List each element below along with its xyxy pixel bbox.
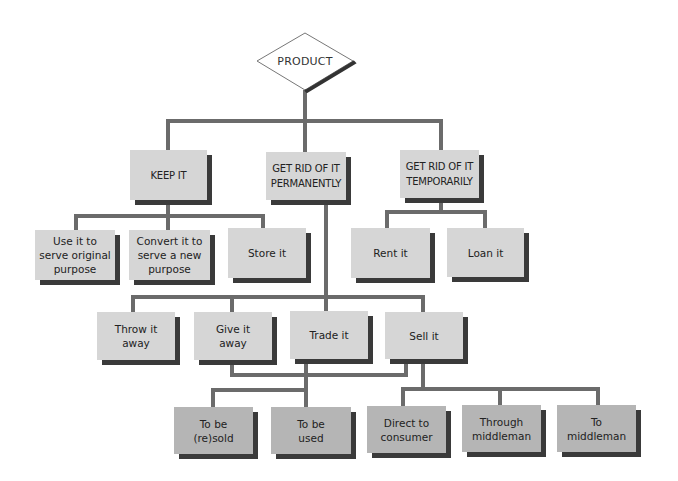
connector bbox=[596, 387, 600, 406]
node-label: Give it away bbox=[216, 322, 250, 350]
connector bbox=[385, 210, 487, 214]
node-to-be-used: To be used bbox=[271, 407, 351, 454]
node-label: Throw it away bbox=[115, 322, 158, 350]
connector bbox=[421, 363, 425, 390]
connector bbox=[401, 387, 405, 407]
connector bbox=[211, 388, 215, 408]
node-label: Store it bbox=[248, 246, 286, 260]
connector bbox=[304, 363, 308, 408]
connector bbox=[439, 119, 443, 151]
node-label: Through middleman bbox=[472, 415, 531, 443]
root-label: PRODUCT bbox=[255, 32, 355, 90]
node-direct-to-consumer: Direct to consumer bbox=[367, 406, 446, 453]
node-to-be-resold: To be (re)sold bbox=[174, 407, 253, 454]
connector bbox=[404, 363, 408, 377]
connector bbox=[230, 373, 408, 377]
node-get-rid-temporarily: GET RID OF IT TEMPORARILY bbox=[400, 150, 479, 198]
node-rent-it: Rent it bbox=[351, 228, 430, 278]
node-label: Sell it bbox=[409, 329, 438, 343]
node-through-middleman: Through middleman bbox=[462, 405, 541, 452]
connector bbox=[483, 210, 487, 229]
node-label: Loan it bbox=[468, 246, 504, 260]
node-label: Rent it bbox=[373, 246, 407, 260]
connector bbox=[131, 295, 425, 299]
node-label: Direct to consumer bbox=[381, 416, 433, 444]
node-label: To be used bbox=[297, 417, 325, 445]
node-label: Convert it to serve a new purpose bbox=[137, 234, 203, 276]
node-label: GET RID OF IT PERMANENTLY bbox=[271, 161, 341, 191]
connector bbox=[74, 214, 265, 218]
node-store-it: Store it bbox=[228, 228, 306, 278]
connector bbox=[166, 119, 443, 123]
node-trade-it: Trade it bbox=[290, 311, 368, 359]
connector bbox=[211, 388, 308, 392]
node-loan-it: Loan it bbox=[447, 228, 524, 277]
connector bbox=[261, 214, 265, 229]
connector bbox=[230, 295, 234, 313]
node-label: Use it to serve original purpose bbox=[39, 234, 111, 276]
node-label: Trade it bbox=[309, 328, 348, 342]
node-use-original-purpose: Use it to serve original purpose bbox=[35, 230, 115, 280]
connector bbox=[421, 295, 425, 313]
node-sell-it: Sell it bbox=[385, 312, 463, 359]
connector bbox=[385, 210, 389, 229]
node-to-middleman: To middleman bbox=[557, 405, 636, 452]
node-label: To be (re)sold bbox=[193, 417, 233, 445]
node-get-rid-permanently: GET RID OF IT PERMANENTLY bbox=[266, 152, 346, 200]
connector bbox=[131, 295, 135, 313]
connector bbox=[498, 387, 502, 406]
node-throw-it-away: Throw it away bbox=[97, 312, 175, 360]
product-disposition-diagram: PRODUCT KEEP IT GET RID OF IT PERMANENTL… bbox=[0, 0, 678, 481]
node-label: KEEP IT bbox=[150, 168, 186, 183]
node-give-it-away: Give it away bbox=[194, 312, 272, 360]
node-keep-it: KEEP IT bbox=[130, 150, 207, 200]
root-node-product: PRODUCT bbox=[255, 32, 355, 92]
node-label: To middleman bbox=[567, 415, 626, 443]
connector bbox=[74, 214, 78, 231]
node-convert-new-purpose: Convert it to serve a new purpose bbox=[129, 230, 210, 280]
connector bbox=[166, 119, 170, 151]
node-label: GET RID OF IT TEMPORARILY bbox=[406, 159, 473, 189]
